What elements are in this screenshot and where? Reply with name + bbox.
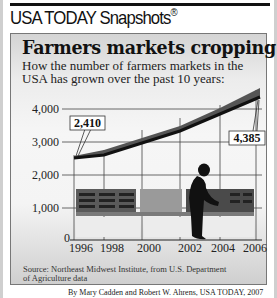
line-chart: 4,000 3,000 2,000 1,000 0 1996 1998 2000 bbox=[0, 0, 277, 298]
byline-credit: By Mary Cadden and Robert W. Ahrens, USA… bbox=[68, 288, 263, 297]
x-tick-label: 2006 bbox=[243, 241, 267, 255]
x-tick-label: 2000 bbox=[137, 241, 161, 255]
y-tick-label: 2,000 bbox=[32, 168, 59, 182]
y-axis-labels: 4,000 3,000 2,000 1,000 0 bbox=[32, 102, 70, 245]
source-note: Source: Northeast Midwest Institute, fro… bbox=[23, 265, 233, 283]
x-tick-label: 1998 bbox=[100, 241, 124, 255]
y-tick-label: 1,000 bbox=[32, 201, 59, 215]
annotation-start: 2,410 bbox=[70, 116, 105, 156]
y-tick-label: 4,000 bbox=[32, 102, 59, 116]
market-stalls-illustration bbox=[76, 189, 254, 237]
y-tick-label: 3,000 bbox=[32, 135, 59, 149]
annotation-label: 4,385 bbox=[234, 131, 261, 145]
x-axis-labels: 1996 1998 2000 2002 2004 2006 bbox=[69, 241, 267, 255]
annotation-label: 2,410 bbox=[74, 116, 101, 130]
x-tick-label: 1996 bbox=[69, 241, 93, 255]
x-tick-label: 2004 bbox=[211, 241, 235, 255]
x-tick-label: 2002 bbox=[178, 241, 202, 255]
